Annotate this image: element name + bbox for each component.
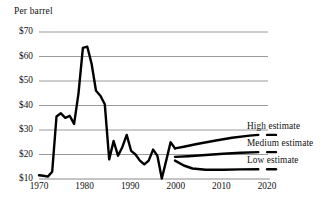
series-low-estimate-line — [175, 161, 258, 170]
series-label-high-estimate: High estimate — [247, 121, 300, 131]
series-historical-line — [39, 47, 175, 179]
y-tick-label-40: $40 — [3, 100, 33, 110]
x-tick-label-2000: 2000 — [156, 181, 196, 191]
x-tick-label-1980: 1980 — [65, 181, 105, 191]
y-tick-label-50: $50 — [3, 75, 33, 85]
x-tick-label-1970: 1970 — [19, 181, 59, 191]
x-tick-label-2020: 2020 — [247, 181, 287, 191]
chart-plot-area — [0, 0, 334, 203]
y-tick-label-30: $30 — [3, 124, 33, 134]
y-tick-label-70: $70 — [3, 26, 33, 36]
series-high-estimate-line — [175, 135, 258, 149]
series-label-medium-estimate: Medium estimate — [247, 138, 313, 148]
y-tick-label-20: $20 — [3, 149, 33, 159]
y-tick-label-60: $60 — [3, 51, 33, 61]
chart-container: Per barrel $70 — [0, 0, 334, 203]
x-tick-label-2010: 2010 — [201, 181, 241, 191]
series-label-low-estimate: Low estimate — [247, 155, 299, 165]
gridlines — [39, 32, 268, 155]
x-tick-label-1990: 1990 — [110, 181, 150, 191]
